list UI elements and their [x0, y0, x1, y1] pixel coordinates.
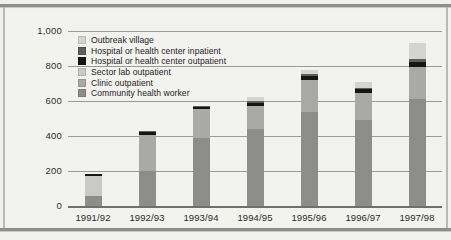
x-tick-label: 1993/94 — [173, 212, 229, 223]
bar-segment — [85, 196, 102, 206]
x-axis-line — [68, 206, 442, 208]
legend-item[interactable]: Hospital or health center inpatient — [78, 46, 288, 57]
x-tick-label: 1992/93 — [119, 212, 175, 223]
bar-segment — [355, 93, 372, 120]
x-tick-label: 1996/97 — [335, 212, 391, 223]
page-left-border — [3, 7, 5, 228]
y-tick-label: 0 — [16, 200, 62, 211]
x-axis-labels: 1991/921992/931993/941994/951995/961996/… — [68, 212, 446, 228]
bar-segment — [409, 43, 426, 59]
legend-item-label: Sector lab outpatient — [91, 67, 171, 77]
y-tick-label: 600 — [16, 95, 62, 106]
bar-segment — [301, 74, 318, 76]
bar-segment — [409, 62, 426, 67]
bar-segment — [355, 120, 372, 206]
bar-segment — [247, 101, 264, 103]
legend-item-label: Hospital or health center outpatient — [91, 56, 226, 66]
x-tick-label: 1991/92 — [65, 212, 121, 223]
bar-segment — [139, 131, 156, 132]
bar-segment — [139, 171, 156, 206]
legend-item-label: Hospital or health center inpatient — [91, 46, 221, 56]
bar-segment — [409, 99, 426, 206]
bar-segment — [409, 67, 426, 99]
chart-canvas: 02004006008001,000 1991/921992/931993/94… — [6, 9, 445, 227]
bar-segment — [247, 106, 264, 129]
bar-segment — [301, 70, 318, 74]
bar-1995-96[interactable] — [301, 31, 318, 206]
bar-segment — [355, 89, 372, 93]
bar-segment — [301, 80, 318, 112]
y-tick-label: 1,000 — [16, 25, 62, 36]
legend-item[interactable]: Clinic outpatient — [78, 77, 288, 88]
x-tick-label: 1994/95 — [227, 212, 283, 223]
bar-segment — [85, 176, 102, 196]
y-tick-label: 400 — [16, 130, 62, 141]
bar-segment — [193, 106, 210, 107]
legend-item[interactable]: Community health worker — [78, 88, 288, 99]
legend-swatch-icon — [78, 36, 86, 44]
legend-swatch-icon — [78, 68, 86, 76]
page-right-border — [446, 7, 448, 228]
x-tick-label: 1997/98 — [389, 212, 445, 223]
bar-segment — [355, 82, 372, 87]
bar-segment — [139, 132, 156, 135]
legend-item-label: Clinic outpatient — [91, 78, 153, 88]
legend-swatch-icon — [78, 89, 86, 97]
bar-segment — [247, 129, 264, 206]
bar-segment — [247, 103, 264, 107]
bar-segment — [193, 138, 210, 206]
bar-1996-97[interactable] — [355, 31, 372, 206]
legend-item[interactable]: Outbreak village — [78, 35, 288, 46]
bar-segment — [193, 109, 210, 138]
bar-segment — [301, 112, 318, 206]
legend-item-label: Community health worker — [91, 88, 190, 98]
bar-segment — [409, 59, 426, 62]
y-tick-label: 800 — [16, 60, 62, 71]
bar-segment — [301, 76, 318, 80]
page-top-border-shadow — [0, 7, 451, 8]
bar-1997-98[interactable] — [409, 31, 426, 206]
x-tick-label: 1995/96 — [281, 212, 337, 223]
legend-item-label: Outbreak village — [91, 35, 154, 45]
legend-swatch-icon — [78, 47, 86, 55]
legend-swatch-icon — [78, 79, 86, 87]
chart-page: 02004006008001,000 1991/921992/931993/94… — [0, 0, 451, 240]
legend-item[interactable]: Sector lab outpatient — [78, 67, 288, 78]
chart-legend: Outbreak villageHospital or health cente… — [78, 35, 288, 99]
legend-swatch-icon — [78, 57, 86, 65]
bar-segment — [193, 106, 210, 108]
legend-item[interactable]: Hospital or health center outpatient — [78, 56, 288, 67]
bar-segment — [355, 88, 372, 90]
page-bottom-border-shadow — [0, 231, 451, 232]
y-axis: 02004006008001,000 — [6, 31, 62, 206]
bar-segment — [139, 135, 156, 171]
bar-segment — [85, 174, 102, 177]
y-tick-label: 200 — [16, 165, 62, 176]
